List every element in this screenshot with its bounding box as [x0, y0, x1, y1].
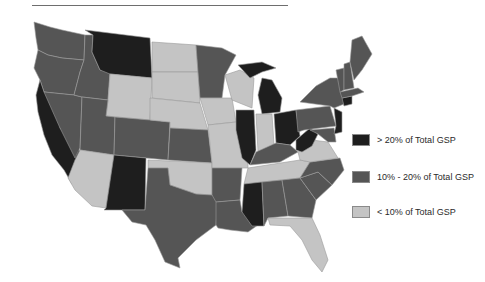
state-mi-lower — [258, 78, 282, 114]
state-nd — [152, 42, 198, 72]
state-ks — [168, 128, 212, 163]
state-co — [114, 117, 170, 160]
legend-swatch-mid — [352, 171, 370, 183]
legend-item-mid: 10% - 20% of Total GSP — [352, 171, 474, 183]
legend-label-mid: 10% - 20% of Total GSP — [377, 172, 474, 182]
state-nj — [334, 108, 342, 134]
legend-swatch-high — [352, 134, 370, 146]
legend-swatch-low — [352, 206, 370, 218]
legend-label-low: < 10% of Total GSP — [377, 207, 456, 217]
legend-item-low: < 10% of Total GSP — [352, 206, 456, 218]
legend-item-high: > 20% of Total GSP — [352, 134, 456, 146]
state-me — [350, 36, 372, 80]
state-wy — [106, 74, 152, 120]
state-ar — [212, 168, 242, 202]
state-sd — [152, 72, 200, 103]
state-ny — [300, 78, 344, 108]
legend-label-high: > 20% of Total GSP — [377, 135, 456, 145]
state-fl — [268, 218, 328, 272]
